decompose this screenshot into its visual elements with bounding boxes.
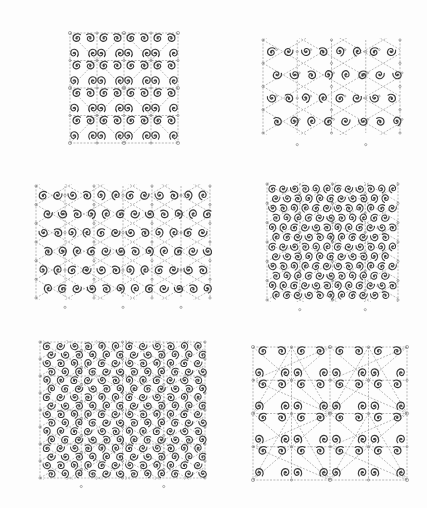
swirl-motif: [116, 132, 124, 139]
swirl-motif: [356, 282, 363, 289]
swirl-motif: [56, 342, 65, 351]
swirl-motif: [301, 93, 311, 103]
swirl-motif: [394, 447, 401, 455]
swirl-motif: [141, 89, 148, 97]
swirl-motif: [356, 224, 363, 231]
swirl-motif: [111, 392, 120, 401]
swirl-motif: [145, 209, 155, 219]
swirl-motif: [359, 213, 368, 222]
swirl-motif: [83, 460, 92, 469]
swirl-motif: [87, 34, 94, 42]
swirl-motif: [348, 271, 357, 280]
swirl-motif: [168, 227, 178, 237]
swirl-motif: [274, 118, 281, 126]
swirl-motif: [289, 70, 299, 80]
swirl-motif: [322, 184, 331, 193]
swirl-motif: [324, 224, 331, 231]
swirl-motif: [327, 253, 334, 260]
swirl-motif: [158, 453, 165, 460]
swirl-motif: [102, 350, 111, 359]
swirl-motif: [380, 194, 389, 203]
swirl-motif: [295, 253, 302, 260]
swirl-motif: [344, 243, 353, 252]
swirl-motif: [154, 34, 161, 42]
swirl-motif: [392, 70, 402, 80]
swirl-motif: [358, 469, 366, 476]
lattice-node: [401, 118, 403, 120]
swirl-motif: [352, 93, 362, 103]
swirl-motif: [54, 229, 61, 237]
lattice-node: [298, 72, 300, 74]
swirl-motif: [278, 380, 285, 388]
swirl-motif: [195, 377, 202, 384]
swirl-motif: [125, 49, 133, 56]
swirl-motif: [268, 262, 277, 271]
swirl-motif: [180, 376, 189, 385]
swirl-motif: [143, 132, 151, 139]
swirl-motif: [76, 453, 83, 460]
swirl-motif: [85, 394, 92, 401]
swirl-motif: [140, 462, 147, 469]
swirl-motif: [58, 209, 68, 219]
swirl-motif: [143, 418, 152, 427]
swirl-motif: [271, 232, 280, 241]
swirl-motif: [153, 428, 160, 435]
lattice-node: [276, 95, 278, 97]
swirl-motif: [317, 347, 324, 355]
swirl-motif: [96, 190, 106, 200]
swirl-motif: [306, 116, 316, 126]
swirl-motif: [62, 385, 69, 392]
swirl-motif: [340, 70, 350, 80]
swirl-motif: [382, 292, 389, 299]
swirl-motif: [371, 402, 379, 409]
swirl-motif: [333, 204, 342, 213]
swirl-motif: [71, 77, 79, 84]
swirl-motif: [138, 426, 147, 435]
square-lattice-p4m-pattern: [70, 33, 178, 143]
swirl-motif: [346, 205, 353, 212]
swirl-motif: [171, 452, 180, 461]
swirl-motif: [111, 443, 120, 452]
swirl-motif: [42, 359, 51, 368]
swirl-motif: [43, 343, 50, 350]
swirl-motif: [154, 191, 164, 201]
swirl-motif: [152, 77, 160, 84]
swirl-motif: [267, 93, 277, 103]
lattice-node: [299, 309, 301, 311]
swirl-motif: [375, 347, 382, 355]
swirl-motif: [70, 409, 79, 418]
swirl-motif: [158, 351, 165, 358]
swirl-motif: [339, 272, 346, 279]
swirl-motif: [377, 281, 386, 290]
swirl-motif: [259, 447, 266, 455]
swirl-motif: [366, 223, 375, 232]
swirl-motif: [138, 375, 147, 384]
hexagonal-p6-dense-pattern: [40, 342, 205, 478]
swirl-motif: [302, 243, 309, 250]
swirl-motif: [355, 447, 362, 455]
swirl-motif: [335, 46, 345, 56]
swirl-motif: [171, 384, 180, 393]
swirl-motif: [268, 48, 275, 56]
swirl-motif: [336, 413, 343, 421]
swirl-motif: [315, 214, 324, 223]
lattice-node: [180, 306, 182, 308]
swirl-motif: [360, 195, 367, 202]
swirl-motif: [273, 214, 280, 221]
lattice-node: [122, 306, 124, 308]
swirl-motif: [71, 104, 79, 111]
lattice-node: [296, 144, 298, 146]
swirl-motif: [279, 243, 288, 252]
lattice-lines: [70, 33, 178, 143]
swirl-motif: [334, 281, 343, 290]
swirl-motif: [308, 71, 315, 79]
swirl-motif: [304, 252, 313, 261]
lattice-node: [401, 72, 403, 74]
swirl-motif: [370, 48, 377, 56]
swirl-motif: [171, 401, 180, 410]
swirl-motif: [388, 242, 397, 251]
lattice-node: [298, 118, 300, 120]
lattice-node: [344, 95, 346, 97]
swirl-motif: [268, 281, 277, 290]
swirl-motif: [113, 428, 120, 435]
